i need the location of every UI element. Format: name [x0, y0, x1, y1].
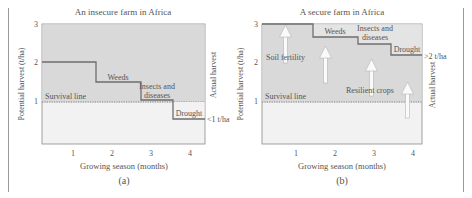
figure-canvas: An insecure farm in Africa Survival line… [0, 0, 472, 198]
panel-b-insects-label-2: diseases [362, 33, 388, 42]
panel-b-xtick-4: 4 [411, 149, 415, 158]
panel-b-soil-fertility-label: Soil fertility [266, 53, 305, 62]
panel-b-xlabel: Growing season (months) [298, 161, 386, 171]
panel-b-xtick-1: 1 [294, 149, 298, 158]
panel-b-ytick-1: 1 [254, 97, 258, 106]
panel-b-ytick-2: 2 [254, 58, 258, 67]
panel-b-ytick-3: 3 [254, 20, 258, 29]
panel-a-xlabel: Growing season (months) [80, 161, 168, 171]
panel-a-potential-region [42, 24, 204, 102]
panel-a-xtick-2: 2 [110, 149, 114, 158]
panel-b-xtick-3: 3 [372, 149, 376, 158]
panel-b-drought-label: Drought [394, 45, 421, 54]
panel-a-xtick-1: 1 [71, 149, 75, 158]
panel-a-ytick-2: 2 [34, 58, 38, 67]
panel-b-resilient-crops-label: Resilient crops [346, 86, 394, 95]
panel-a-insects-label-2: diseases [144, 91, 170, 100]
panel-a-ytick-3: 3 [34, 20, 38, 29]
panel-a-insects-label-1: Insects and [139, 82, 175, 91]
panel-a-xtick-4: 4 [188, 149, 192, 158]
panel-b-weeds-label: Weeds [324, 27, 345, 36]
panel-b-right-label: Actual harvest [428, 61, 437, 108]
panel-b-survival-label: Survival line [265, 92, 307, 101]
panel-b-end-label: >2 t/ha [424, 52, 447, 61]
panel-a-drought-label: Drought [176, 109, 203, 118]
panel-a-survival-label: Survival line [45, 92, 87, 101]
panel-a-ylabel: Potential harvest (t/ha) [17, 47, 26, 120]
panel-a: An insecure farm in Africa Survival line… [17, 7, 230, 187]
panel-b-ylabel: Potential harvest (t/ha) [236, 47, 245, 120]
panel-a-label: (a) [118, 175, 129, 187]
panel-b: A secure farm in Africa Soil fertility R… [236, 7, 447, 187]
panel-a-end-label: <1 t/ha [207, 115, 230, 124]
panel-a-right-label: Actual harvest [209, 51, 218, 98]
panel-b-title: A secure farm in Africa [300, 7, 384, 17]
panel-a-ytick-1: 1 [34, 97, 38, 106]
panel-a-xtick-3: 3 [149, 149, 153, 158]
panel-a-title: An insecure farm in Africa [75, 7, 171, 17]
panel-b-insects-label-1: Insects and [357, 24, 393, 33]
panel-a-weeds-label: Weeds [107, 73, 128, 82]
panel-b-xtick-2: 2 [333, 149, 337, 158]
panel-b-label: (b) [336, 175, 348, 187]
